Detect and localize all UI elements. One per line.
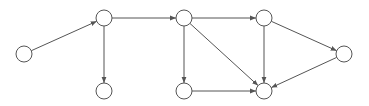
graph-node-A [16, 46, 32, 62]
node-circle [96, 10, 112, 26]
node-circle [16, 46, 32, 62]
node-circle [176, 10, 192, 26]
graph-node-H [336, 46, 352, 62]
graph-node-E [176, 83, 192, 99]
node-circle [176, 83, 192, 99]
graph-node-G [256, 83, 272, 99]
graph-node-F [256, 10, 272, 26]
directed-graph-diagram [0, 0, 369, 106]
edge-F-to-H [271, 21, 336, 50]
arrow-line [271, 21, 336, 50]
graph-node-B [96, 10, 112, 26]
edge-H-to-G [271, 57, 336, 87]
node-circle [256, 10, 272, 26]
arrow-line [271, 57, 336, 87]
arrow-line [190, 23, 258, 85]
graph-node-D [176, 10, 192, 26]
edge-D-to-G [190, 23, 258, 85]
edges-group [31, 18, 336, 91]
node-circle [96, 83, 112, 99]
graph-node-C [96, 83, 112, 99]
node-circle [256, 83, 272, 99]
arrow-line [31, 21, 96, 50]
node-circle [336, 46, 352, 62]
edge-A-to-B [31, 21, 96, 50]
